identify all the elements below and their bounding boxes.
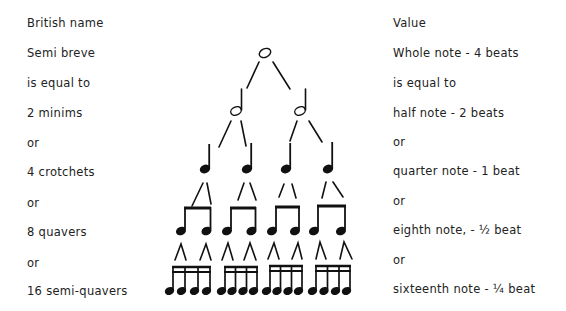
half-note-icon: [229, 89, 242, 117]
eighth-note-pair-icon: [309, 205, 346, 236]
quarter-note-icon: [242, 143, 253, 174]
eighth-note-pair-icon: [176, 207, 212, 236]
branch-lines-whole-to-half: [247, 62, 290, 89]
eighth-note-pair-icon: [222, 207, 257, 236]
sixteenth-note-group-icon: [308, 265, 352, 295]
quarter-note-icon: [200, 144, 211, 174]
sixteenth-note-group-icon: [165, 266, 212, 295]
branch-lines-quarter-to-eighth: [192, 182, 343, 206]
sixteenth-note-group-icon: [217, 266, 259, 295]
sixteenth-note-group-icon: [262, 265, 304, 295]
whole-note-icon: [258, 47, 272, 60]
note-value-tree: [0, 0, 566, 311]
branch-lines-half-to-quarter: [219, 121, 322, 147]
branch-lines-eighth-to-sixteenth: [175, 242, 352, 260]
half-note-icon: [293, 89, 306, 117]
quarter-note-icon: [323, 142, 334, 174]
quarter-note-icon: [281, 143, 292, 174]
eighth-note-pair-icon: [267, 206, 300, 236]
